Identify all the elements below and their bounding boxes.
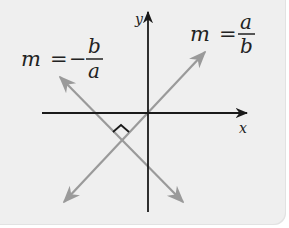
coordinate-diagram: x y m = a b m = − b a (0, 0, 289, 228)
line-positive-slope (64, 52, 205, 202)
slope-var: m (190, 22, 210, 46)
slope-var: m (21, 47, 41, 71)
numerator: b (88, 34, 101, 58)
x-axis-label: x (239, 120, 247, 136)
equals-sign: = (219, 22, 237, 46)
equals-sign: = (50, 47, 68, 71)
slope-label-positive: m = a b (190, 10, 255, 58)
right-angle-marker (113, 125, 129, 132)
denominator: a (88, 59, 100, 83)
minus-sign: − (69, 47, 87, 71)
slope-label-negative: m = − b a (21, 34, 103, 83)
denominator: b (240, 34, 253, 58)
y-axis-label: y (134, 11, 144, 27)
numerator: a (240, 10, 252, 34)
